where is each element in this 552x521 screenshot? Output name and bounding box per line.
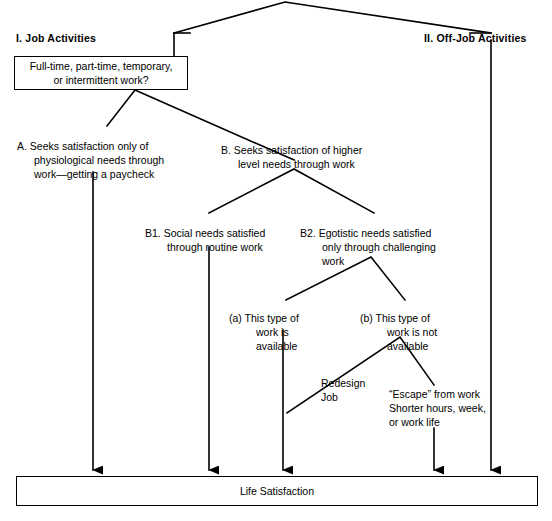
leaf-a-text: (a) This type of work is available (229, 312, 334, 354)
life-satisfaction-box: Life Satisfaction (16, 476, 538, 506)
branch-b-label: B. Seeks satisfaction of higher level ne… (221, 130, 421, 185)
leaf-b-text: (b) This type of work is not available (360, 312, 470, 354)
top-apex-connector (174, 2, 491, 33)
leaf-a-label: (a) This type of work is available (229, 298, 334, 367)
escape-from-work-label: “Escape” from work Shorter hours, week, … (389, 388, 509, 430)
heading-job-activities: I. Job Activities (16, 32, 96, 46)
heading-off-job-activities: II. Off-Job Activities (424, 32, 527, 46)
question-box: Full-time, part-time, temporary, or inte… (14, 56, 188, 90)
branch-b2-label: B2. Egotistic needs satisfied only throu… (300, 213, 460, 282)
branch-a-text: A. Seeks satisfaction only of physiologi… (17, 140, 202, 182)
question-box-text: Full-time, part-time, temporary, or inte… (30, 59, 173, 87)
branch-b2-text: B2. Egotistic needs satisfied only throu… (300, 227, 460, 269)
leaf-b-label: (b) This type of work is not available (360, 298, 470, 367)
branch-b-text: B. Seeks satisfaction of higher level ne… (221, 144, 421, 172)
life-satisfaction-text: Life Satisfaction (240, 485, 314, 497)
branch-b1-label: B1. Social needs satisfied through routi… (145, 213, 295, 268)
flow-diagram: I. Job Activities II. Off-Job Activities… (0, 0, 552, 521)
branch-a-label: A. Seeks satisfaction only of physiologi… (17, 126, 202, 195)
branch-b1-text: B1. Social needs satisfied through routi… (145, 227, 295, 255)
